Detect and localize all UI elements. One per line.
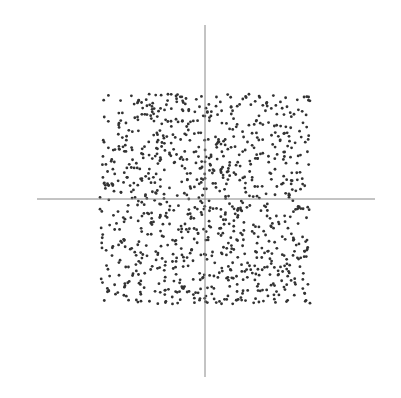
data-point <box>227 195 230 198</box>
data-point <box>268 240 271 243</box>
data-point <box>101 163 104 166</box>
data-point <box>301 177 304 180</box>
data-point <box>267 295 270 298</box>
data-point <box>193 206 196 209</box>
data-point <box>215 186 218 189</box>
data-point <box>296 162 299 165</box>
data-point <box>284 220 287 223</box>
data-point <box>171 296 174 299</box>
data-point <box>253 123 256 126</box>
data-point <box>163 269 166 272</box>
data-point <box>280 279 283 282</box>
data-point <box>118 274 121 277</box>
data-point <box>287 270 290 273</box>
data-point <box>304 300 307 303</box>
data-point <box>251 179 254 182</box>
data-point <box>261 123 264 126</box>
data-point <box>308 208 311 211</box>
data-point <box>255 132 258 135</box>
data-point <box>303 255 306 258</box>
data-point <box>143 272 146 275</box>
data-point <box>119 99 122 102</box>
data-point <box>128 163 131 166</box>
data-point <box>298 242 301 245</box>
data-point <box>160 122 163 125</box>
data-point <box>286 131 289 134</box>
data-point <box>159 156 162 159</box>
data-point <box>150 117 153 120</box>
data-point <box>102 99 105 102</box>
data-point <box>260 247 263 250</box>
data-point <box>277 274 280 277</box>
data-point <box>185 194 188 197</box>
data-point <box>168 209 171 212</box>
data-point <box>117 244 120 247</box>
data-point <box>252 195 255 198</box>
data-point <box>220 302 223 305</box>
data-point <box>244 191 247 194</box>
data-point <box>182 158 185 161</box>
data-point <box>163 169 166 172</box>
data-point <box>281 235 284 238</box>
data-point <box>299 265 302 268</box>
data-point <box>228 164 231 167</box>
data-point <box>118 228 121 231</box>
data-point <box>233 171 236 174</box>
data-point <box>186 256 189 259</box>
data-point <box>186 178 189 181</box>
data-point <box>133 103 136 106</box>
data-point <box>255 256 258 259</box>
data-point <box>100 278 103 281</box>
data-point <box>178 281 181 284</box>
data-point <box>148 300 151 303</box>
data-point <box>295 244 298 247</box>
data-point <box>133 251 136 254</box>
data-point <box>220 109 223 112</box>
data-point <box>164 149 167 152</box>
data-point <box>103 141 106 144</box>
data-point <box>209 163 212 166</box>
data-point <box>151 265 154 268</box>
data-point <box>101 233 104 236</box>
data-point <box>202 178 205 181</box>
data-point <box>290 115 293 118</box>
data-point <box>304 141 307 144</box>
data-point <box>254 250 257 253</box>
data-point <box>260 209 263 212</box>
data-point <box>172 253 175 256</box>
data-point <box>284 288 287 291</box>
data-point <box>238 153 241 156</box>
data-point <box>285 283 288 286</box>
data-point <box>196 178 199 181</box>
data-point <box>101 281 104 284</box>
data-point <box>185 125 188 128</box>
data-point <box>269 257 272 260</box>
data-point <box>129 184 132 187</box>
data-point <box>290 183 293 186</box>
data-point <box>238 179 241 182</box>
data-point <box>167 93 170 96</box>
data-point <box>179 278 182 281</box>
data-point <box>182 109 185 112</box>
data-point <box>256 242 259 245</box>
data-point <box>289 111 292 114</box>
data-point <box>195 228 198 231</box>
data-point <box>246 289 249 292</box>
data-point <box>199 278 202 281</box>
data-point <box>251 272 254 275</box>
data-point <box>121 136 124 139</box>
data-point <box>307 283 310 286</box>
data-point <box>218 300 221 303</box>
data-point <box>158 216 161 219</box>
data-point <box>248 160 251 163</box>
data-point <box>278 294 281 297</box>
data-point <box>220 171 223 174</box>
data-point <box>148 177 151 180</box>
data-point <box>192 293 195 296</box>
data-point <box>265 192 268 195</box>
data-point <box>267 121 270 124</box>
data-point <box>197 146 200 149</box>
data-point <box>195 162 198 165</box>
data-point <box>137 129 140 132</box>
data-point <box>208 220 211 223</box>
